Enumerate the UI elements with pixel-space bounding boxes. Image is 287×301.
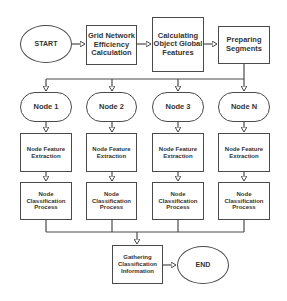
start-terminal: START	[20, 25, 72, 63]
node-2-extraction-label: Node Feature Extraction	[87, 146, 136, 160]
node-1: Node 1	[20, 92, 72, 122]
start-label: START	[35, 40, 58, 48]
node-2-feature-extraction: Node Feature Extraction	[86, 133, 137, 172]
gathering-classification-box: Gathering Classification Information	[112, 245, 163, 284]
node-n-classification: Node Classification Process	[218, 182, 270, 220]
node-n-classification-label: Node Classification Process	[219, 191, 269, 212]
node-3-feature-extraction: Node Feature Extraction	[152, 133, 204, 172]
end-label: END	[196, 261, 211, 269]
calculating-global-features-box: Calculating Object Global Features	[152, 17, 204, 72]
node-3-classification-label: Node Classification Process	[153, 191, 203, 212]
node-3-extraction-label: Node Feature Extraction	[153, 146, 203, 160]
node-n-label: Node N	[231, 103, 257, 112]
preparing-segments-box: Preparing Segments	[218, 26, 270, 64]
gathering-label: Gathering Classification Information	[113, 254, 162, 275]
node-1-classification: Node Classification Process	[20, 182, 72, 220]
node-3: Node 3	[152, 92, 204, 122]
node-n-feature-extraction: Node Feature Extraction	[218, 133, 270, 172]
preparing-segments-label: Preparing Segments	[219, 36, 269, 53]
calculating-features-label: Calculating Object Global Features	[153, 32, 203, 58]
node-3-label: Node 3	[165, 103, 190, 112]
node-n: Node N	[218, 92, 270, 122]
grid-network-label: Grid Network Efficiency Calculation	[87, 32, 136, 58]
node-2-classification: Node Classification Process	[86, 182, 137, 220]
grid-network-efficiency-box: Grid Network Efficiency Calculation	[86, 25, 137, 65]
node-1-label: Node 1	[33, 103, 58, 112]
node-1-extraction-label: Node Feature Extraction	[21, 146, 71, 160]
node-2-classification-label: Node Classification Process	[87, 191, 136, 212]
end-terminal: END	[177, 246, 229, 284]
node-2: Node 2	[86, 92, 137, 122]
node-1-classification-label: Node Classification Process	[21, 191, 71, 212]
node-n-extraction-label: Node Feature Extraction	[219, 146, 269, 160]
node-1-feature-extraction: Node Feature Extraction	[20, 133, 72, 172]
node-2-label: Node 2	[99, 103, 124, 112]
node-3-classification: Node Classification Process	[152, 182, 204, 220]
